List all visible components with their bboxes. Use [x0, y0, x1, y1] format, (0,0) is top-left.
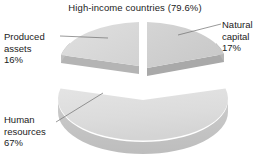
slice-label-human-resources-line2: resources — [4, 126, 46, 138]
slice-label-human-resources-line1: Human — [4, 114, 46, 126]
slice-label-produced-assets-line1: Produced — [4, 31, 45, 43]
slice-label-natural-capital: Natural capital 17% — [222, 19, 253, 54]
slice-label-natural-capital-line1: Natural — [222, 19, 253, 31]
slice-label-natural-capital-value: 17% — [222, 42, 253, 54]
slice-label-human-resources-value: 67% — [4, 137, 46, 149]
slice-label-produced-assets-line2: assets — [4, 43, 45, 55]
slice-label-human-resources: Human resources 67% — [4, 114, 46, 149]
pie-chart-figure: High-income countries (79.6%) — [0, 0, 270, 165]
slice-label-natural-capital-line2: capital — [222, 31, 253, 43]
slice-human-resources[interactable] — [58, 89, 228, 155]
slice-label-produced-assets-value: 16% — [4, 54, 45, 66]
slice-produced-assets[interactable] — [61, 22, 139, 74]
slice-natural-capital[interactable] — [147, 22, 224, 76]
slice-label-produced-assets: Produced assets 16% — [4, 31, 45, 66]
